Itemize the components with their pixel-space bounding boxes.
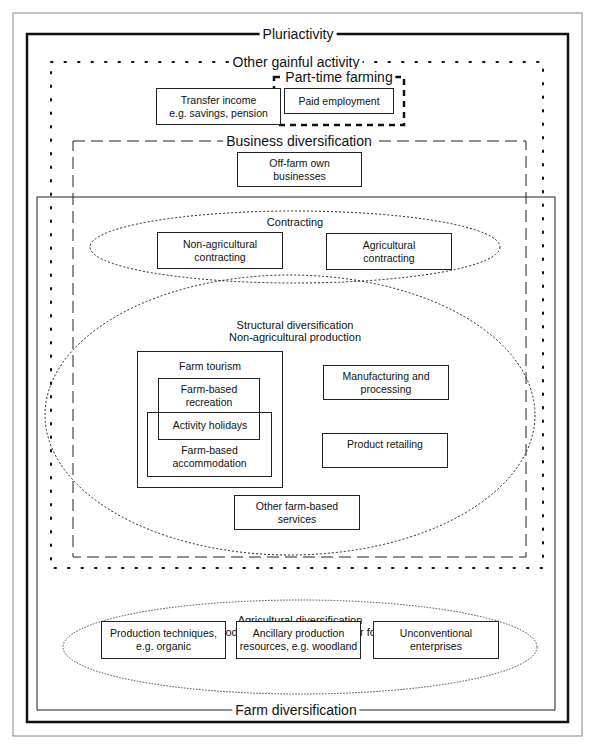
unconventional-enterprises-box: Unconventionalenterprises	[373, 621, 499, 659]
paid-employment-text: Paid employment	[298, 95, 379, 108]
ancillary-line1: Ancillary production	[240, 627, 357, 640]
transfer-income-box: Transfer incomee.g. savings, pension	[156, 88, 281, 125]
production-techniques-line1: Production techniques,	[110, 627, 217, 640]
agri-contracting-line2: contracting	[363, 252, 416, 265]
transfer-income-line2: e.g. savings, pension	[169, 107, 268, 120]
agri-contracting-line1: Agricultural	[363, 239, 416, 252]
product-retailing-text: Product retailing	[347, 438, 423, 451]
off-farm-line2: businesses	[269, 170, 330, 183]
manufacturing-line1: Manufacturing and	[343, 370, 430, 383]
other-services-line2: services	[256, 513, 338, 526]
production-techniques-box: Production techniques,e.g. organic	[101, 621, 226, 659]
ancillary-resources-box: Ancillary productionresources, e.g. wood…	[236, 621, 361, 659]
product-retailing-box: Product retailing	[322, 433, 448, 468]
ancillary-line2: resources, e.g. woodland	[240, 640, 357, 653]
non-agri-line1: Non-agricultural	[183, 238, 257, 251]
pluriactivity-label: Pluriactivity	[260, 26, 337, 42]
contracting-label: Contracting	[267, 216, 323, 229]
off-farm-businesses-box: Off-farm ownbusinesses	[237, 152, 362, 187]
other-gainful-activity-label: Other gainful activity	[230, 54, 363, 70]
activity-holidays-label: Activity holidays	[173, 419, 248, 432]
other-services-line1: Other farm-based	[256, 500, 338, 513]
business-diversification-label: Business diversification	[223, 133, 375, 149]
other-farm-services-box: Other farm-basedservices	[234, 495, 360, 530]
production-techniques-line2: e.g. organic	[110, 640, 217, 653]
unconventional-line2: enterprises	[400, 640, 472, 653]
agricultural-contracting-box: Agriculturalcontracting	[326, 233, 452, 270]
farm-diversification-label: Farm diversification	[232, 702, 359, 718]
transfer-income-line1: Transfer income	[169, 94, 268, 107]
non-agricultural-contracting-box: Non-agriculturalcontracting	[157, 232, 283, 269]
recreation-line2: recreation	[181, 396, 238, 409]
accommodation-line1: Farm-based	[172, 444, 246, 457]
part-time-farming-label: Part-time farming	[282, 69, 395, 85]
manufacturing-line2: processing	[343, 383, 430, 396]
structural-label-line2: Non-agricultural production	[229, 331, 361, 344]
farm-tourism-label: Farm tourism	[138, 360, 282, 373]
paid-employment-box: Paid employment	[284, 88, 394, 114]
unconventional-line1: Unconventional	[400, 627, 472, 640]
manufacturing-processing-box: Manufacturing andprocessing	[323, 365, 449, 400]
off-farm-line1: Off-farm own	[269, 157, 330, 170]
non-agri-line2: contracting	[183, 251, 257, 264]
accommodation-line2: accommodation	[172, 457, 246, 470]
recreation-line1: Farm-based	[181, 383, 238, 396]
